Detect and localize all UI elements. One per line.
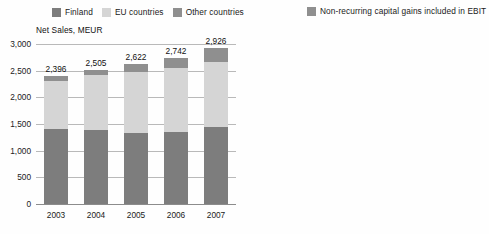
- net-sales-bars: 2,3962,5052,6222,7422,926: [36, 44, 236, 204]
- bar-value-label: 2,622: [126, 52, 147, 62]
- legend-swatch-capital-gains: [307, 7, 316, 16]
- operating-profit-chart-panel: Non-recurring capital gains included in …: [245, 0, 489, 234]
- bar-value-label: 2,396: [46, 64, 67, 74]
- bar-value-label: 2,742: [166, 46, 187, 56]
- x-axis-tick-2006: 2006: [156, 205, 196, 225]
- bar-segment: [124, 133, 147, 204]
- legend-swatch-other: [173, 8, 182, 17]
- bar-slot[interactable]: 2,622: [116, 44, 156, 204]
- bar-slot[interactable]: 2,926: [196, 44, 236, 204]
- legend-label-capital-gains: Non-recurring capital gains included in …: [320, 6, 486, 16]
- net-sales-plot-area: 3,0002,5002,0001,5001,0005000 2,3962,505…: [36, 44, 236, 204]
- net-sales-x-axis: 20032004200520062007: [36, 205, 236, 225]
- net-sales-legend: Finland EU countries Other countries: [52, 7, 244, 17]
- bar-segment: [164, 58, 187, 68]
- stacked-bar[interactable]: 2,396: [44, 76, 67, 204]
- y-axis-tick: 0: [0, 199, 31, 209]
- x-axis-tick-2004: 2004: [76, 205, 116, 225]
- y-axis-tick: 500: [0, 172, 31, 182]
- stacked-bar[interactable]: 2,742: [164, 58, 187, 204]
- stacked-bar[interactable]: 2,505: [84, 70, 107, 204]
- bar-segment: [84, 75, 107, 131]
- stacked-bar[interactable]: 2,622: [124, 64, 147, 204]
- legend-swatch-finland: [52, 8, 61, 17]
- legend-item-eu-countries: EU countries: [102, 7, 164, 17]
- bar-slot[interactable]: 2,396: [36, 44, 76, 204]
- net-sales-chart-panel: Finland EU countries Other countries Net…: [0, 0, 245, 234]
- stacked-bar[interactable]: 2,926: [204, 48, 227, 204]
- bar-segment: [44, 129, 67, 204]
- bar-segment: [164, 132, 187, 204]
- y-axis-tick: 1,500: [0, 119, 31, 129]
- chart-page: Finland EU countries Other countries Net…: [0, 0, 489, 234]
- x-axis-tick-2003: 2003: [36, 205, 76, 225]
- bar-segment: [164, 68, 187, 132]
- y-axis-tick: 3,000: [0, 39, 31, 49]
- bar-segment: [124, 64, 147, 72]
- y-axis-tick: 1,000: [0, 146, 31, 156]
- x-axis-tick-2007: 2007: [196, 205, 236, 225]
- bar-segment: [204, 127, 227, 204]
- x-axis-tick-2005: 2005: [116, 205, 156, 225]
- bar-slot[interactable]: 2,505: [76, 44, 116, 204]
- legend-label-finland: Finland: [65, 7, 93, 17]
- legend-item-capital-gains: Non-recurring capital gains included in …: [307, 6, 486, 16]
- y-axis-tick: 2,500: [0, 66, 31, 76]
- legend-label-eu-countries: EU countries: [115, 7, 164, 17]
- bar-segment: [84, 130, 107, 204]
- y-axis-tick: 2,000: [0, 92, 31, 102]
- legend-label-other-countries: Other countries: [186, 7, 244, 17]
- legend-item-finland: Finland: [52, 7, 93, 17]
- legend-swatch-eu: [102, 8, 111, 17]
- operating-profit-legend: Non-recurring capital gains included in …: [307, 6, 486, 16]
- bar-segment: [124, 72, 147, 133]
- bar-segment: [44, 81, 67, 130]
- legend-item-other-countries: Other countries: [173, 7, 244, 17]
- bar-value-label: 2,505: [86, 58, 107, 68]
- bar-value-label: 2,926: [206, 36, 227, 46]
- net-sales-axis-title: Net Sales, MEUR: [36, 25, 103, 35]
- bar-slot[interactable]: 2,742: [156, 44, 196, 204]
- bar-segment: [204, 48, 227, 62]
- bar-segment: [204, 62, 227, 128]
